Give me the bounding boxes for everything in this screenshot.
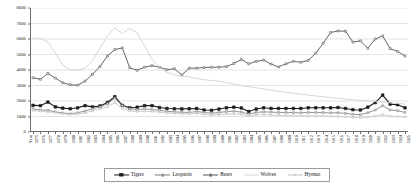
x-tick-label: 1915: [332, 135, 336, 144]
x-tick-label: 1902: [235, 135, 239, 144]
x-tick-mark: [390, 132, 391, 134]
x-tick-mark: [293, 132, 294, 134]
x-axis: Year187518761877187818791880188118821883…: [30, 132, 408, 166]
x-tick-mark: [308, 132, 309, 134]
legend-label: Hyenas: [305, 172, 321, 177]
x-tick-label: 1881: [79, 135, 83, 144]
x-tick-label: 1880: [72, 135, 76, 144]
legend-item-leopards[interactable]: Leopards: [155, 172, 191, 178]
legend-swatch-icon: [244, 172, 259, 178]
plot-border: [30, 8, 408, 132]
y-tick-label: 7000: [16, 21, 26, 26]
x-tick-label: 1887: [124, 135, 128, 144]
x-tick-label: 1922: [384, 135, 388, 144]
x-tick-mark: [130, 132, 131, 134]
x-tick-label: 1909: [288, 135, 292, 144]
x-tick-mark: [234, 132, 235, 134]
chart-container: 010002000300040005000600070008000 Year18…: [0, 0, 416, 189]
x-tick-label: 1890: [146, 135, 150, 144]
x-axis-title: Year: [29, 135, 33, 143]
x-tick-mark: [159, 132, 160, 134]
x-tick-label: 1892: [161, 135, 165, 144]
x-tick-label: 1910: [295, 135, 299, 144]
legend-swatch-icon: [288, 172, 303, 178]
x-tick-label: 1906: [265, 135, 269, 144]
x-tick-mark: [368, 132, 369, 134]
x-tick-label: 1895: [183, 135, 187, 144]
x-tick-mark: [204, 132, 205, 134]
x-tick-label: 1920: [369, 135, 373, 144]
y-tick-label: 1000: [16, 114, 26, 119]
x-tick-mark: [107, 132, 108, 134]
legend-item-bears[interactable]: Bears: [203, 172, 232, 178]
y-axis: 010002000300040005000600070008000: [0, 8, 30, 132]
legend-item-tigers[interactable]: Tigers: [114, 172, 144, 178]
x-tick-mark: [78, 132, 79, 134]
legend-swatch-icon: [114, 172, 129, 178]
y-tick-label: 5000: [16, 52, 26, 57]
y-tick-label: 4000: [16, 68, 26, 73]
chart-legend[interactable]: TigersLeopardsBearsWolvesHyenas: [104, 168, 330, 182]
x-tick-label: 1876: [42, 135, 46, 144]
x-tick-label: 1898: [206, 135, 210, 144]
x-tick-label: 1911: [302, 135, 306, 143]
plot-area: [30, 8, 408, 132]
legend-label: Bears: [220, 172, 232, 177]
x-tick-mark: [301, 132, 302, 134]
y-tick-label: 3000: [16, 83, 26, 88]
legend-swatch-icon: [203, 172, 218, 178]
x-tick-mark: [63, 132, 64, 134]
x-tick-label: 1888: [131, 135, 135, 144]
x-tick-mark: [279, 132, 280, 134]
x-tick-mark: [286, 132, 287, 134]
legend-swatch-icon: [155, 172, 170, 178]
legend-label: Tigers: [131, 172, 144, 177]
x-tick-label: 1917: [347, 135, 351, 144]
x-tick-label: 1877: [49, 135, 53, 144]
x-tick-label: 1914: [325, 135, 329, 144]
x-tick-label: 1896: [191, 135, 195, 144]
x-tick-mark: [145, 132, 146, 134]
x-tick-label: 1925: [407, 135, 411, 144]
x-tick-mark: [316, 132, 317, 134]
x-tick-mark: [152, 132, 153, 134]
x-tick-label: 1882: [87, 135, 91, 144]
legend-item-hyenas[interactable]: Hyenas: [288, 172, 321, 178]
x-tick-mark: [219, 132, 220, 134]
legend-item-wolves[interactable]: Wolves: [244, 172, 276, 178]
x-tick-label: 1897: [198, 135, 202, 144]
x-tick-mark: [353, 132, 354, 134]
x-tick-mark: [85, 132, 86, 134]
x-tick-mark: [226, 132, 227, 134]
x-tick-label: 1883: [94, 135, 98, 144]
x-tick-mark: [137, 132, 138, 134]
x-tick-mark: [182, 132, 183, 134]
x-tick-label: 1907: [273, 135, 277, 144]
x-tick-label: 1921: [377, 135, 381, 144]
x-tick-label: 1900: [221, 135, 225, 144]
legend-label: Leopards: [172, 172, 191, 177]
x-tick-mark: [33, 132, 34, 134]
x-tick-label: 1904: [250, 135, 254, 144]
x-tick-label: 1916: [340, 135, 344, 144]
x-tick-mark: [383, 132, 384, 134]
x-tick-label: 1913: [317, 135, 321, 144]
x-tick-label: 1889: [139, 135, 143, 144]
x-tick-mark: [405, 132, 406, 134]
y-tick-label: 2000: [16, 99, 26, 104]
x-tick-label: 1875: [35, 135, 39, 144]
y-tick-label: 8000: [16, 6, 26, 11]
legend-label: Wolves: [261, 172, 276, 177]
x-tick-label: 1894: [176, 135, 180, 144]
x-tick-mark: [93, 132, 94, 134]
y-tick-label: 0: [24, 130, 26, 135]
x-tick-label: 1912: [310, 135, 314, 144]
x-tick-label: 1879: [64, 135, 68, 144]
x-tick-mark: [256, 132, 257, 134]
x-tick-label: 1878: [57, 135, 61, 144]
x-tick-mark: [375, 132, 376, 134]
x-tick-mark: [331, 132, 332, 134]
x-tick-label: 1899: [213, 135, 217, 144]
x-tick-label: 1905: [258, 135, 262, 144]
x-tick-label: 1885: [109, 135, 113, 144]
